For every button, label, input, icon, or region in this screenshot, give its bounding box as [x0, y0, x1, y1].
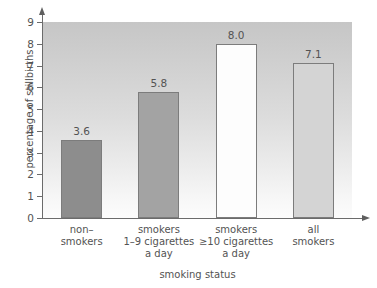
- y-axis-tick: [37, 153, 42, 154]
- bar-value-label: 3.6: [52, 126, 112, 137]
- bar: [138, 92, 179, 218]
- bar: [216, 44, 257, 218]
- x-axis-category-label: allsmokers: [259, 224, 367, 248]
- y-axis-tick: [37, 109, 42, 110]
- y-axis-arrow-icon: [39, 7, 45, 15]
- bar: [61, 140, 102, 218]
- y-axis-tick: [37, 174, 42, 175]
- y-axis-tick: [37, 196, 42, 197]
- bar-value-label: 8.0: [206, 30, 266, 41]
- x-axis-category-label-line: all: [259, 224, 367, 236]
- x-axis-arrow-icon: [362, 215, 370, 221]
- bar-value-label: 5.8: [129, 78, 189, 89]
- x-axis-category-label-line: smokers: [259, 236, 367, 248]
- y-axis-tick: [37, 218, 42, 219]
- y-axis-tick: [37, 87, 42, 88]
- x-axis-category-label-line: a day: [182, 248, 290, 260]
- y-axis-tick: [37, 22, 42, 23]
- x-axis-title: smoking status: [43, 269, 352, 280]
- bar-chart: 0123456789 percentage of stillbirths 3.6…: [0, 0, 377, 288]
- y-axis-tick: [37, 66, 42, 67]
- y-axis-line: [42, 14, 43, 219]
- y-axis-title: percentage of stillbirths: [25, 19, 35, 199]
- bar: [293, 63, 334, 218]
- y-axis-tick-label: 0: [14, 213, 34, 223]
- bar-value-label: 7.1: [283, 49, 343, 60]
- cut-off-chart-title: [88, 0, 288, 3]
- y-axis-tick: [37, 131, 42, 132]
- x-axis-line: [42, 218, 363, 219]
- y-axis-tick: [37, 44, 42, 45]
